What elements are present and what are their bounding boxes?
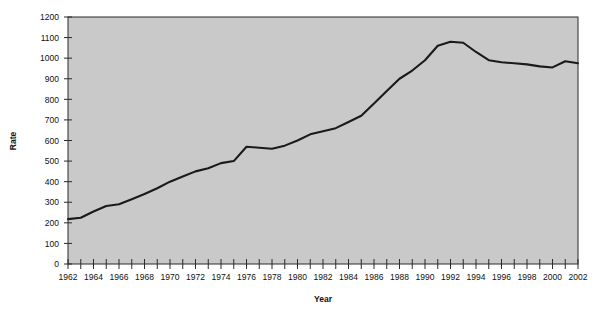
x-tick-label: 1976 — [237, 272, 256, 282]
x-axis-tick-labels: 1962196419661968197019721974197619781980… — [59, 272, 588, 282]
y-tick-label: 100 — [45, 239, 59, 249]
y-tick-label: 1200 — [40, 12, 59, 22]
y-tick-label: 900 — [45, 74, 59, 84]
x-tick-label: 2002 — [569, 272, 588, 282]
x-tick-label: 1966 — [110, 272, 129, 282]
chart-canvas: 0100200300400500600700800900100011001200… — [0, 0, 599, 317]
x-tick-label: 1984 — [339, 272, 358, 282]
y-tick-label: 0 — [54, 259, 59, 269]
x-tick-label: 1970 — [161, 272, 180, 282]
x-tick-label: 2000 — [543, 272, 562, 282]
x-tick-label: 1996 — [492, 272, 511, 282]
x-tick-label: 1980 — [288, 272, 307, 282]
y-axis-title: Rate — [8, 132, 18, 151]
x-tick-label: 1988 — [390, 272, 409, 282]
y-tick-label: 200 — [45, 218, 59, 228]
x-axis-title: Year — [314, 294, 333, 304]
x-tick-label: 1990 — [416, 272, 435, 282]
y-tick-label: 800 — [45, 95, 59, 105]
y-tick-label: 400 — [45, 177, 59, 187]
y-tick-label: 1000 — [40, 53, 59, 63]
x-tick-label: 1974 — [212, 272, 231, 282]
x-tick-label: 1964 — [84, 272, 103, 282]
x-tick-label: 1998 — [518, 272, 537, 282]
y-tick-label: 700 — [45, 115, 59, 125]
x-tick-label: 1992 — [441, 272, 460, 282]
x-tick-label: 1982 — [314, 272, 333, 282]
y-tick-label: 600 — [45, 136, 59, 146]
y-tick-label: 500 — [45, 156, 59, 166]
x-tick-label: 1986 — [365, 272, 384, 282]
x-tick-label: 1994 — [467, 272, 486, 282]
y-tick-label: 300 — [45, 197, 59, 207]
y-tick-label: 1100 — [41, 33, 60, 43]
x-tick-label: 1972 — [186, 272, 205, 282]
plot-area-background — [68, 17, 578, 264]
line-chart-figure: 0100200300400500600700800900100011001200… — [0, 0, 599, 317]
x-tick-label: 1968 — [135, 272, 154, 282]
x-tick-label: 1978 — [263, 272, 282, 282]
x-tick-label: 1962 — [59, 272, 78, 282]
